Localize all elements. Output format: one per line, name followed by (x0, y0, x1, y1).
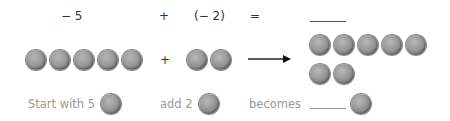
equals-sign: = (250, 9, 260, 23)
caption-add: add 2 (160, 97, 193, 111)
counter (50, 50, 70, 70)
counter-icon (351, 94, 371, 114)
caption-becomes: becomes (249, 97, 301, 111)
answer-blank (310, 21, 346, 22)
right-arrow-icon (248, 53, 292, 65)
counter (382, 35, 402, 55)
caption-blank (310, 108, 346, 109)
plus-sign: + (159, 9, 169, 23)
counter (310, 64, 330, 84)
counter (334, 64, 354, 84)
counter (187, 50, 207, 70)
counter (334, 35, 354, 55)
counter (358, 35, 378, 55)
counter (122, 50, 142, 70)
counter (26, 50, 46, 70)
term-2: (− 2) (194, 9, 225, 23)
counter (98, 50, 118, 70)
counter-plus-sign: + (160, 53, 170, 67)
counter (406, 35, 426, 55)
counter (74, 50, 94, 70)
caption-start: Start with 5 (28, 97, 95, 111)
counter-icon (199, 94, 219, 114)
counter (310, 35, 330, 55)
counter (211, 50, 231, 70)
counter-icon (101, 94, 121, 114)
term-1: − 5 (61, 9, 83, 23)
